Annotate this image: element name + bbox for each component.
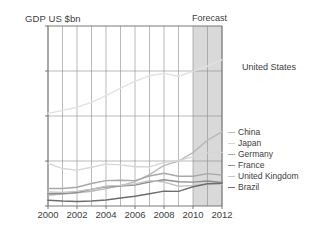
legend-item-brazil[interactable]: Brazil (228, 183, 259, 192)
legend-swatch-icon (228, 187, 235, 188)
legend-item-france[interactable]: France (228, 161, 264, 170)
legend-swatch-icon (228, 143, 235, 144)
legend-item-label: United Kingdom (238, 172, 298, 181)
x-tick-label: 2006 (124, 210, 145, 220)
legend-swatch-icon (228, 176, 235, 177)
x-tick-label: 2002 (66, 210, 87, 220)
legend-item-china[interactable]: China (228, 128, 260, 137)
x-tick-label: 2008 (153, 210, 174, 220)
legend-swatch-icon (228, 154, 235, 155)
legend-swatch-icon (228, 165, 235, 166)
legend-item-label: China (238, 128, 260, 137)
legend-swatch-icon (228, 132, 235, 133)
x-tick-label: 2000 (37, 210, 58, 220)
legend-item-label: Brazil (238, 183, 259, 192)
legend-item-japan[interactable]: Japan (228, 139, 261, 148)
legend-item-label: Germany (238, 150, 273, 159)
x-tick-label: 2010 (182, 210, 203, 220)
legend-item-united-kingdom[interactable]: United Kingdom (228, 172, 298, 181)
legend-item-label: France (238, 161, 264, 170)
x-tick-label: 2004 (95, 210, 116, 220)
legend-item-label: Japan (238, 139, 261, 148)
legend-item-germany[interactable]: Germany (228, 150, 273, 159)
gdp-line-chart: GDP US $bn Forecast 0500010 00015 00020 … (0, 0, 314, 233)
chart-legend: ChinaJapanGermanyFranceUnited KingdomBra… (228, 0, 314, 233)
